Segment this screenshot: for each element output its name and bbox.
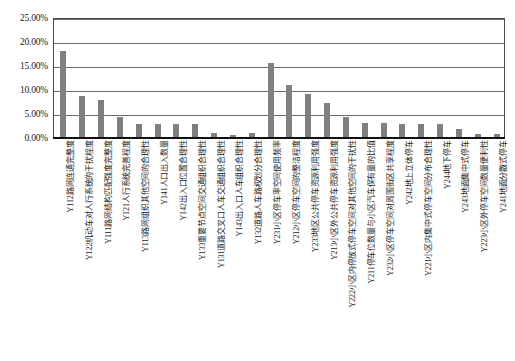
- x-axis-tick-label: Y141人口出入数量: [160, 140, 169, 205]
- y-axis-tick-label: 10.00%: [20, 85, 48, 95]
- x-axis-tick-label-text: Y231小区停车率空间使用频率: [273, 140, 282, 244]
- x-axis-tick-label: Y131道路交叉口人车交通组织合理性: [217, 140, 226, 268]
- bar: [192, 124, 198, 137]
- x-axis-tick-label: Y244地下停车: [443, 140, 452, 189]
- x-axis-tick-label: Y232小区停车空间对周围街区共享程度: [386, 140, 395, 276]
- x-axis-tick-label-text: Y211停车位数量与小区汽车保有量的比值: [367, 140, 376, 283]
- x-axis-tick-label-text: Y113路网组织其他空间的合理性: [141, 140, 150, 252]
- bar: [343, 117, 349, 137]
- x-axis-tick-label-text: Y221小区内集中式停车空间分布合理性: [424, 140, 433, 276]
- x-axis-tick-label-text: Y141人口出入数量: [160, 140, 169, 205]
- x-axis-tick-label-text: Y233地区公共停车资源利用强度: [311, 140, 320, 252]
- bar: [437, 124, 443, 137]
- x-axis-tick-label: Y113路网组织其他空间的合理性: [141, 140, 150, 252]
- x-axis-tick-label: Y122机动车对人行系统的干扰程度: [85, 140, 94, 260]
- x-axis-tick-label: Y143出入口人车组织合理性: [235, 140, 244, 236]
- x-axis-tick-label-text: Y232小区停车空间对周围街区共享程度: [386, 140, 395, 276]
- x-axis-tick-label-text: Y222小区内停放式停车空间对其他空间的干扰性: [348, 140, 357, 307]
- x-axis-tick-label-text: Y122机动车对人行系统的干扰程度: [85, 140, 94, 260]
- x-axis-tick-label: Y221小区内集中式停车空间分布合理性: [424, 140, 433, 276]
- y-axis: 25.00%20.00%15.00%10.00%5.00%0.00%: [0, 18, 52, 140]
- x-axis-tick-label-text: Y133重要节点空间交通组织合理性: [198, 140, 207, 260]
- x-axis-baseline: [53, 137, 505, 139]
- y-axis-tick-label: 5.00%: [24, 109, 48, 119]
- plot-area: [53, 18, 505, 138]
- x-axis-tick-label-text: Y212小区停车空间的整洁程度: [292, 140, 301, 244]
- x-axis-tick-label: Y222小区内停放式停车空间对其他空间的干扰性: [348, 140, 357, 307]
- bar: [399, 124, 405, 137]
- x-axis-tick-label: Y213小区外公共停车资源利用强度: [330, 140, 339, 260]
- x-axis-tick-label: Y241地面分散式停车: [499, 140, 508, 213]
- x-axis-tick-label-text: Y131道路交叉口人车交通组织合理性: [217, 140, 226, 268]
- x-axis-tick-label: Y112路网连通完整度: [66, 140, 75, 212]
- x-axis-tick-label-text: Y243地面集中式停车: [461, 140, 470, 213]
- bar: [456, 129, 462, 137]
- bar: [268, 63, 274, 137]
- x-axis-tick-label-text: Y142出入口位置合理性: [179, 140, 188, 221]
- x-axis-tick-label-text: Y244地下停车: [443, 140, 452, 189]
- bar: [324, 103, 330, 137]
- x-axis-tick-label: Y111路网结构匹配强度完整度: [104, 140, 113, 244]
- x-axis-tick-label-text: Y132道路人车路权划分合理性: [254, 140, 263, 244]
- x-axis-tick-label: Y121人行系统完善程度: [122, 140, 131, 221]
- x-axis-tick-label-text: Y112路网连通完整度: [66, 140, 75, 212]
- x-axis-tick-label-text: Y121人行系统完善程度: [122, 140, 131, 221]
- x-axis-tick-label-text: Y242地上立体停车: [405, 140, 414, 205]
- bar: [155, 124, 161, 137]
- x-axis-tick-label: Y133重要节点空间交通组织合理性: [198, 140, 207, 260]
- x-axis-tick-label: Y132道路人车路权划分合理性: [254, 140, 263, 244]
- bar: [418, 124, 424, 137]
- bar: [60, 51, 66, 137]
- y-axis-tick-label: 20.00%: [20, 37, 48, 47]
- x-axis-tick-label: Y243地面集中式停车: [461, 140, 470, 213]
- bar: [117, 117, 123, 137]
- bar-chart: 25.00%20.00%15.00%10.00%5.00%0.00% Y112路…: [0, 0, 515, 361]
- y-axis-tick-label: 15.00%: [20, 61, 48, 71]
- bar: [136, 124, 142, 137]
- x-axis-tick-label: Y223小区外停车空间数量便利性: [480, 140, 489, 252]
- bar-series: [54, 19, 504, 137]
- bar: [286, 85, 292, 137]
- x-axis-tick-label-text: Y241地面分散式停车: [499, 140, 508, 213]
- x-axis-tick-label: Y242地上立体停车: [405, 140, 414, 205]
- x-axis-tick-label: Y142出入口位置合理性: [179, 140, 188, 221]
- x-axis-tick-label-text: Y111路网结构匹配强度完整度: [104, 140, 113, 244]
- x-axis-tick-label-text: Y213小区外公共停车资源利用强度: [330, 140, 339, 260]
- bar: [79, 96, 85, 137]
- bar: [305, 94, 311, 137]
- x-axis-tick-label: Y233地区公共停车资源利用强度: [311, 140, 320, 252]
- x-axis-labels: Y112路网连通完整度Y122机动车对人行系统的干扰程度Y111路网结构匹配强度…: [53, 140, 505, 355]
- bar: [362, 123, 368, 137]
- y-axis-tick-label: 0.00%: [24, 133, 48, 143]
- x-axis-tick-label: Y211停车位数量与小区汽车保有量的比值: [367, 140, 376, 283]
- x-axis-tick-label: Y212小区停车空间的整洁程度: [292, 140, 301, 244]
- bar: [98, 100, 104, 137]
- x-axis-tick-label-text: Y223小区外停车空间数量便利性: [480, 140, 489, 252]
- bar: [381, 123, 387, 137]
- x-axis-tick-label: Y231小区停车率空间使用频率: [273, 140, 282, 244]
- bar: [173, 124, 179, 137]
- x-axis-tick-label-text: Y143出入口人车组织合理性: [235, 140, 244, 236]
- y-axis-tick-label: 25.00%: [20, 13, 48, 23]
